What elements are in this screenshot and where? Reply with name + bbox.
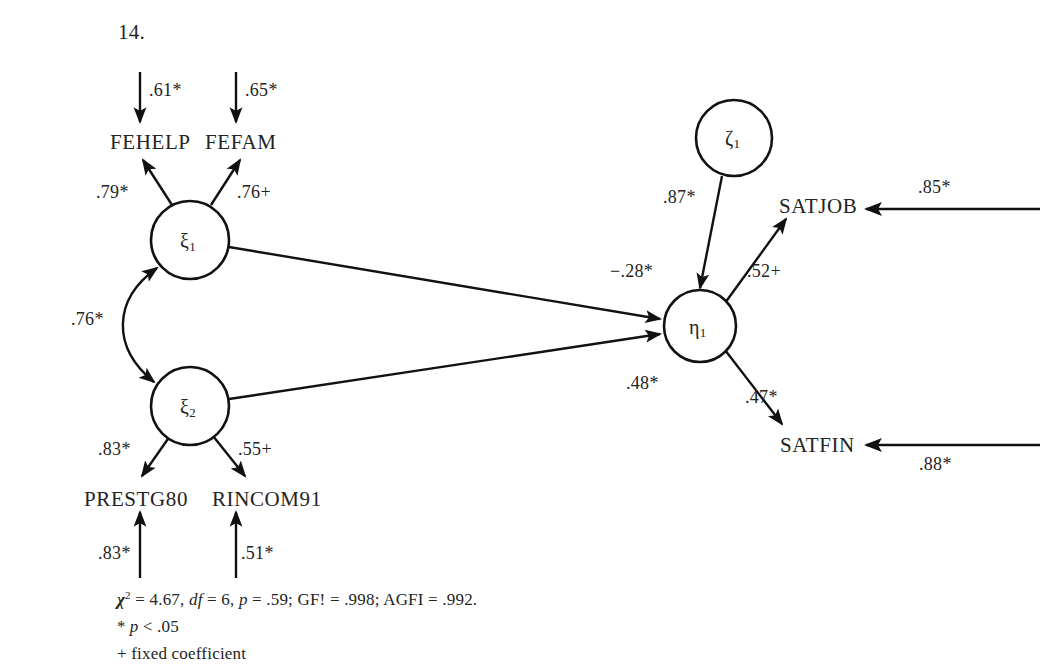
coefficient-error-satjob: .85* [918, 178, 951, 196]
footnote-significance-legend: *p < .05 [117, 618, 179, 635]
coefficient-error-rincom91: .51* [241, 544, 274, 562]
latent-label-zeta1: ζ1 [725, 128, 740, 150]
coefficient-covariance-xi1-xi2: .76* [71, 310, 104, 328]
coefficient-loading-eta1-satfin: .47* [745, 388, 778, 406]
observed-var-satfin: SATFIN [780, 435, 855, 456]
latent-symbol-xi2: ξ [180, 396, 189, 418]
arrow-loading-xi2-prestg80 [142, 436, 170, 476]
arrow-covariance-xi1-xi2 [123, 268, 157, 382]
sem-path-diagram-figure: 14. FEHELP FEFAM PRESTG80 RINCOM91 SATJO… [0, 0, 1046, 672]
observed-var-fefam: FEFAM [205, 132, 276, 153]
coefficient-error-fefam: .65* [245, 81, 278, 99]
latent-subscript-xi1: 1 [189, 239, 196, 254]
fit-part-2: = 6, [203, 590, 239, 609]
fit-part-1: = 4.67, [131, 590, 189, 609]
arrow-loading-xi1-fehelp [143, 160, 172, 205]
footnote-fit-statistics: χ2 = 4.67, df = 6, p = .59; GF! = .998; … [117, 590, 477, 608]
coefficient-loading-xi2-prestg80: .83* [98, 440, 131, 458]
footnote-fixed-coefficient-legend: + fixed coefficient [117, 645, 246, 662]
observed-var-satjob: SATJOB [779, 196, 857, 217]
latent-label-xi2: ξ2 [180, 397, 196, 419]
coefficient-loading-xi2-rincom91: .55+ [238, 440, 272, 458]
latent-label-xi1: ξ1 [180, 231, 196, 253]
df-label: df [189, 590, 203, 609]
p-label: p [239, 590, 248, 609]
latent-subscript-zeta1: 1 [733, 136, 740, 151]
latent-symbol-eta1: η [689, 316, 700, 338]
observed-var-rincom91: RINCOM91 [212, 489, 322, 510]
coefficient-path-xi1-eta1: −.28* [610, 262, 653, 280]
arrow-path-xi1-eta1 [229, 247, 660, 319]
observed-var-prestg80: PRESTG80 [84, 489, 188, 510]
coefficient-error-satfin: .88* [919, 455, 952, 473]
latent-subscript-xi2: 2 [189, 405, 196, 420]
observed-var-fehelp: FEHELP [110, 132, 191, 153]
arrow-disturbance-zeta1-eta1 [700, 176, 722, 288]
diagram-canvas [0, 0, 1046, 672]
latent-symbol-xi1: ξ [180, 230, 189, 252]
coefficient-error-fehelp: .61* [149, 81, 182, 99]
coefficient-loading-xi1-fehelp: .79* [96, 183, 129, 201]
arrow-loading-xi1-fefam [211, 160, 240, 205]
coefficient-loading-eta1-satjob: .52+ [747, 262, 781, 280]
chi-symbol: χ [117, 590, 125, 609]
figure-number: 14. [118, 22, 145, 43]
coefficient-error-prestg80: .83* [98, 544, 131, 562]
latent-label-eta1: η1 [689, 317, 706, 339]
arrow-path-xi2-eta1 [229, 334, 660, 399]
significance-star: * [117, 617, 126, 636]
latent-subscript-eta1: 1 [700, 325, 707, 340]
coefficient-loading-xi1-fefam: .76+ [237, 183, 271, 201]
fit-part-3: = .59; GF! = .998; AGFI = .992. [248, 590, 478, 609]
coefficient-disturbance-zeta1-eta1: .87* [663, 188, 696, 206]
significance-threshold: < .05 [138, 617, 179, 636]
coefficient-path-xi2-eta1: .48* [626, 374, 659, 392]
